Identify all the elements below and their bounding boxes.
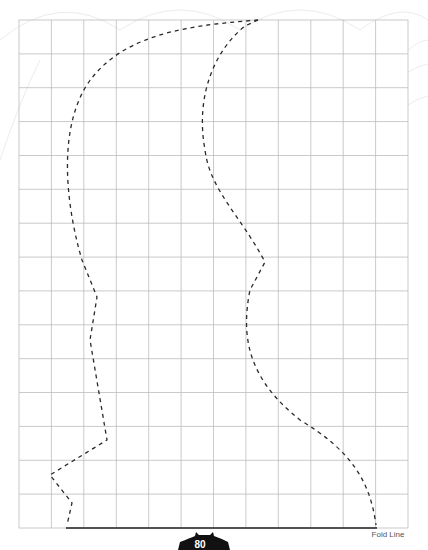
fold-line-label: Fold Line xyxy=(372,530,405,539)
inner-cut-line xyxy=(202,20,376,525)
page-number-badge: 80 xyxy=(175,538,225,550)
outer-cut-line xyxy=(50,20,258,525)
pattern-sheet xyxy=(0,0,428,550)
grid xyxy=(19,20,408,528)
page-number: 80 xyxy=(175,539,225,550)
